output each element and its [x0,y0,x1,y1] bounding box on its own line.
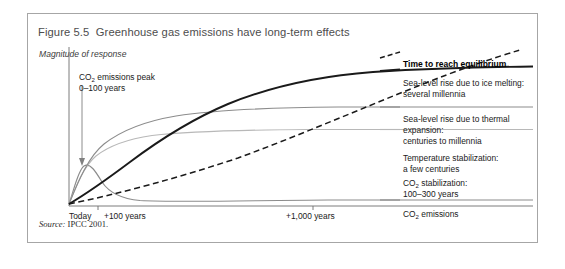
annotation-arrow-head [79,158,85,166]
legend-label-line1: Temperature stabilization: [403,153,498,164]
legend-co2-pre: CO [403,209,416,219]
peak-annotation-co2-post: emissions peak [95,72,155,82]
legend-label-line2: 100–300 years [403,189,467,200]
peak-annotation-co2-sub: 2 [92,77,95,83]
peak-annotation: CO2 emissions peak 0–100 years [79,72,155,94]
legend-co2-sub: 2 [416,214,419,220]
legend-item-sea-level-thermal-expansion: Sea-level rise due to thermal expansion:… [403,114,510,147]
source-note: Source: IPCC 2001. [39,219,108,229]
source-value: IPCC 2001. [65,219,108,229]
legend-label-line1: Sea-level rise due to thermal [403,114,510,125]
x-tick-label-1000-years: +1,000 years [286,211,335,221]
legend-co2-sub: 2 [416,183,419,189]
legend-connector-ice-melting [380,52,400,58]
peak-annotation-line2: 0–100 years [79,83,155,94]
peak-annotation-co2-pre: CO [79,72,92,82]
legend-item-co2-stabilization: CO2 stabilization: 100–300 years [403,178,467,200]
legend-item-temperature-stabilization: Temperature stabilization: a few centuri… [403,153,498,175]
legend-co2-pre: CO [403,178,416,188]
legend-co2-post: stabilization: [419,178,467,188]
legend-label-line1: Sea-level rise due to ice melting: [403,78,524,89]
peak-annotation-line1: CO2 emissions peak [79,72,155,83]
legend-label-line3: centuries to millennia [403,136,510,147]
legend-label-line2: a few centuries [403,164,498,175]
legend-label-line2: several millennia [403,89,524,100]
legend-co2-post: emissions [419,209,459,219]
legend-item-co2-emissions: CO2 emissions [403,209,458,220]
source-label: Source: [39,219,65,229]
figure-container: Figure 5.5 Greenhouse gas emissions have… [27,13,538,243]
legend-label-line2: expansion: [403,125,510,136]
x-tick-label-100-years: +100 years [104,211,146,221]
legend-item-sea-level-ice-melting: Sea-level rise due to ice melting: sever… [403,78,524,100]
legend-heading: Time to reach equilibrium [403,59,506,69]
legend-label-line1: CO2 stabilization: [403,178,467,189]
legend-label-line1: CO2 emissions [403,209,458,220]
